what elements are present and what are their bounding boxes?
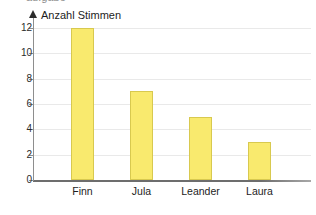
y-tick-label-6: 6	[6, 99, 32, 109]
bar-laura	[248, 142, 271, 180]
x-tick-label-leander: Leander	[170, 185, 231, 197]
x-tick-label-finn: Finn	[52, 185, 113, 197]
plot-area: 12 10 8 6 4 2 0 Anzahl Stimmen Finn Jula…	[0, 0, 316, 215]
bar-leander	[189, 117, 212, 180]
y-tick-label-2: 2	[6, 150, 32, 160]
y-axis-title: Anzahl Stimmen	[41, 9, 121, 21]
bar-chart: aufgabe 12 10 8 6 4 2 0 Anza	[0, 0, 316, 215]
x-axis-line	[33, 180, 311, 182]
bar-finn	[71, 28, 94, 180]
y-tick-label-12: 12	[6, 23, 32, 33]
y-tick-label-8: 8	[6, 74, 32, 84]
bar-jula	[130, 91, 153, 180]
y-tick-label-0: 0	[6, 175, 32, 185]
x-tick-label-laura: Laura	[229, 185, 290, 197]
y-tick-label-10: 10	[6, 48, 32, 58]
y-tick-label-4: 4	[6, 124, 32, 134]
x-tick-label-jula: Jula	[111, 185, 172, 197]
y-axis-arrow-icon	[29, 10, 37, 18]
